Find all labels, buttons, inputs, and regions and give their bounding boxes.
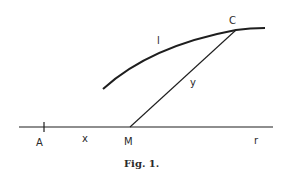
figure-caption: Fig. 1.	[124, 158, 159, 169]
label-segment-y: y	[190, 77, 196, 88]
label-axis-r: r	[254, 135, 259, 146]
label-point-m: M	[124, 136, 133, 147]
label-point-a: A	[36, 137, 43, 148]
label-curve-l: l	[157, 35, 160, 46]
figure-diagram: A x M r l C y Fig. 1.	[0, 0, 284, 179]
curve-l	[103, 28, 265, 89]
label-point-c: C	[229, 15, 236, 26]
label-segment-x: x	[82, 133, 88, 144]
